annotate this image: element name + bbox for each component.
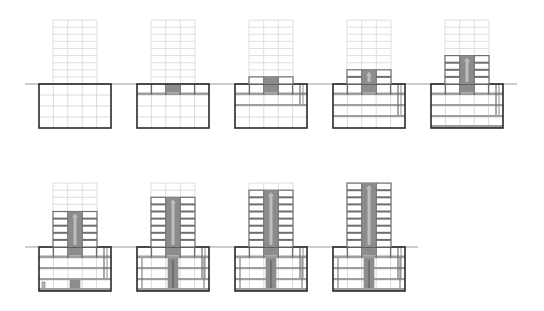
slab (431, 115, 503, 117)
stage-3 (235, 20, 307, 128)
core-block (264, 85, 279, 93)
core-base (70, 280, 81, 289)
basement-box (333, 247, 405, 291)
slab (137, 256, 209, 259)
ghost-tower (53, 20, 97, 84)
slab (39, 267, 111, 269)
basement-box (137, 84, 209, 128)
core-block (362, 248, 377, 256)
stage-9 (333, 183, 405, 291)
basement-box (333, 84, 405, 128)
core-shaft (264, 77, 279, 84)
built-tower (249, 190, 293, 247)
built-tower (249, 77, 293, 84)
stage-2 (137, 20, 209, 128)
core-block (68, 248, 83, 256)
basement-box (137, 247, 209, 291)
core-block (362, 85, 377, 93)
arrow-shaft (74, 216, 77, 246)
ghost-tower (249, 20, 293, 84)
slab (333, 115, 405, 117)
core-block (166, 248, 181, 256)
temp-column (42, 282, 45, 289)
slab (333, 256, 405, 259)
stage-5 (431, 20, 503, 128)
slab (39, 256, 111, 259)
ghost-tower (151, 20, 195, 84)
stage-6 (39, 183, 111, 291)
slab (235, 256, 307, 259)
arrow-shaft (172, 201, 175, 245)
diagram-canvas (0, 0, 544, 311)
built-tower (347, 183, 391, 247)
stage-4 (333, 20, 405, 128)
core-block (264, 248, 279, 256)
stage-8 (235, 183, 307, 291)
basement-box (39, 247, 111, 291)
basement-box (235, 84, 307, 128)
slab (235, 104, 307, 106)
basement-box (431, 84, 503, 128)
slab (431, 104, 503, 106)
basement-box (235, 247, 307, 291)
built-tower (151, 197, 195, 247)
slab (39, 278, 111, 280)
arrow-shaft (270, 194, 273, 245)
basement-box (39, 84, 111, 128)
built-tower (53, 212, 97, 248)
arrow-shaft (368, 187, 371, 245)
core-block (460, 85, 475, 93)
slab (333, 104, 405, 106)
arrow-shaft (466, 60, 469, 82)
slab (431, 93, 503, 96)
slab (235, 93, 307, 96)
core-block (166, 85, 181, 93)
slab (137, 93, 209, 96)
stage-7 (137, 183, 209, 291)
built-tower (445, 56, 489, 84)
built-tower (347, 70, 391, 84)
slab (333, 93, 405, 96)
stage-1 (39, 20, 111, 128)
